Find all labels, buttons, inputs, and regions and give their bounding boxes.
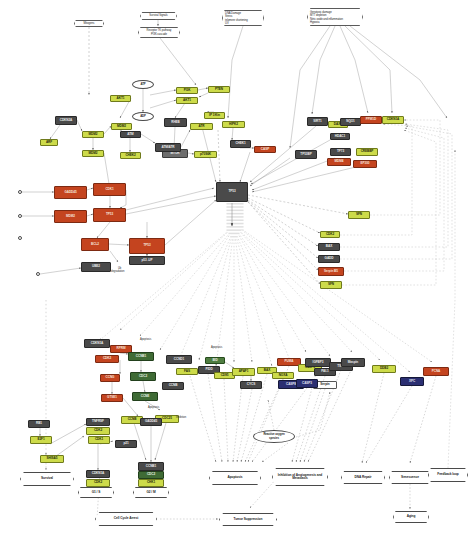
- gene-node[interactable]: MDM2: [82, 150, 104, 157]
- phenotype-node[interactable]: Apoptosis: [209, 471, 261, 485]
- stimulus-node: Survival Signals: [140, 12, 177, 20]
- gene-label: GADD: [325, 257, 334, 260]
- gene-node[interactable]: TP53BP: [295, 150, 317, 159]
- gene-node[interactable]: BAX: [318, 243, 340, 251]
- gene-node[interactable]: CDKN1A: [382, 116, 404, 124]
- gene-node[interactable]: CASP3: [296, 379, 318, 388]
- gene-node[interactable]: RHEB: [164, 118, 187, 127]
- gene-node[interactable]: ATM: [120, 131, 141, 138]
- gene-node[interactable]: ARF: [40, 139, 58, 146]
- gene-node[interactable]: CHEK1: [230, 140, 251, 148]
- gene-node[interactable]: AKT1: [110, 95, 131, 102]
- gene-node[interactable]: CCNB1: [128, 352, 154, 361]
- gene-node[interactable]: CDK1: [88, 436, 110, 444]
- stimulus-line: Survival Signals: [149, 14, 167, 17]
- phenotype-node[interactable]: G2 / M: [133, 487, 169, 498]
- gene-node[interactable]: UBE2: [81, 262, 111, 272]
- phenotype-node[interactable]: Survival: [20, 472, 74, 486]
- gene-node[interactable]: IP 3 Kin: [204, 112, 225, 119]
- gene-node[interactable]: PPM1D: [360, 116, 382, 124]
- gene-node[interactable]: CDC2: [138, 471, 164, 479]
- gene-node[interactable]: CCNG: [100, 374, 120, 382]
- annotation-label: Apoptosis: [211, 346, 222, 349]
- gene-node[interactable]: CDKN1A: [86, 470, 110, 478]
- gene-node[interactable]: p53 -UP: [129, 256, 165, 265]
- gene-node[interactable]: CASP: [254, 146, 276, 153]
- phenotype-node[interactable]: G1 / S: [78, 487, 114, 498]
- gene-node[interactable]: CCNE: [132, 392, 158, 401]
- gene-node[interactable]: CCNB: [162, 382, 184, 390]
- gene-label: SHISA5: [47, 457, 58, 460]
- gene-node[interactable]: AKT1: [176, 97, 198, 104]
- gene-node[interactable]: TP53: [129, 238, 165, 254]
- edge-layer: [0, 0, 471, 543]
- phenotype-node[interactable]: Tumor Suppression: [219, 513, 277, 526]
- gene-node[interactable]: CDK1: [93, 183, 126, 196]
- gene-node[interactable]: ATR: [190, 123, 213, 130]
- gene-node[interactable]: RB1: [28, 420, 50, 428]
- gene-node[interactable]: PI3K: [176, 87, 198, 94]
- gene-node[interactable]: CDK2: [95, 355, 119, 363]
- phenotype-node[interactable]: Aging: [393, 511, 429, 523]
- gene-node[interactable]: CDK2: [86, 427, 110, 435]
- gene-label: RB1: [36, 422, 42, 425]
- gene-node[interactable]: TNFRSF: [86, 418, 110, 426]
- gene-node[interactable]: TP73: [330, 148, 351, 156]
- gene-node[interactable]: CDK2: [320, 231, 340, 238]
- gene-node[interactable]: CDC2: [130, 372, 156, 381]
- gene-node[interactable]: MDM2: [82, 131, 104, 138]
- gene-node[interactable]: MDM2: [54, 210, 87, 223]
- gene-node[interactable]: ATM/ATR: [155, 143, 181, 152]
- gene-node[interactable]: APAF1: [232, 368, 255, 376]
- gene-label: TP53: [106, 213, 113, 216]
- gene-node[interactable]: MDM4: [327, 158, 351, 166]
- gene-node[interactable]: p70S6K: [194, 151, 217, 158]
- gene-node[interactable]: TP53: [93, 208, 126, 222]
- gene-node[interactable]: CDKN2A: [55, 116, 77, 125]
- gene-node[interactable]: CREBBP: [356, 148, 378, 156]
- gene-node[interactable]: CYCS: [240, 381, 262, 389]
- phenotype-node[interactable]: Inhibition of Angiogenesis and Metastasi…: [272, 468, 328, 486]
- gene-node[interactable]: CCND1: [166, 355, 192, 364]
- gene-node[interactable]: MDM2: [111, 123, 132, 130]
- gene-label: CDC2: [139, 375, 147, 378]
- gene-node[interactable]: CDKN1A: [84, 339, 110, 348]
- gene-node[interactable]: IGFBP3: [305, 358, 331, 367]
- gene-node[interactable]: BCL2: [81, 238, 109, 251]
- gene-label: CDC25: [162, 417, 172, 420]
- gene-node[interactable]: PCNA: [423, 367, 449, 376]
- gene-node[interactable]: SFN: [348, 211, 370, 219]
- phenotype-node[interactable]: Cell Cycle Arrest: [95, 512, 157, 526]
- phenotype-node[interactable]: Senescence: [389, 471, 431, 484]
- gene-node[interactable]: FAS: [176, 368, 198, 375]
- gene-node[interactable]: CHK1: [138, 479, 164, 487]
- gene-node[interactable]: NQO1: [340, 118, 361, 126]
- gene-node[interactable]: SHISA5: [40, 455, 64, 463]
- gene-node[interactable]: CCNB1: [138, 462, 164, 471]
- phenotype-node[interactable]: DNA Repair: [341, 471, 385, 484]
- gene-node[interactable]: SIRT1: [307, 117, 328, 126]
- gene-node[interactable]: Serpin B5: [318, 267, 344, 276]
- gene-node[interactable]: E2F1: [30, 436, 52, 444]
- gene-node[interactable]: Maspin: [341, 358, 365, 367]
- gene-label: ARF: [46, 141, 52, 144]
- gene-node[interactable]: XPC: [400, 377, 424, 386]
- gene-label: MDM2: [89, 133, 98, 136]
- gene-node[interactable]: CDK2: [86, 479, 110, 487]
- gene-node[interactable]: GADD: [318, 255, 340, 263]
- gene-node[interactable]: DDB2: [372, 365, 396, 373]
- gene-node[interactable]: CHEK2: [120, 152, 141, 159]
- gene-node[interactable]: SFN: [320, 281, 342, 289]
- gene-node[interactable]: GADD45: [140, 418, 162, 426]
- gene-node[interactable]: GADD45: [54, 186, 87, 199]
- phenotype-node[interactable]: Feedback loop: [428, 468, 468, 482]
- gene-node[interactable]: HIPK2: [222, 121, 245, 128]
- gene-node[interactable]: PTEN: [208, 86, 230, 93]
- gene-node[interactable]: BID: [205, 357, 225, 364]
- gene-node[interactable]: TP53: [216, 182, 248, 202]
- gene-node[interactable]: p21: [115, 440, 137, 448]
- gene-node[interactable]: EP300: [353, 160, 377, 168]
- gene-node[interactable]: HDAC1: [330, 133, 350, 140]
- gene-node[interactable]: GTSE1: [101, 394, 123, 402]
- gene-node[interactable]: NOXA: [272, 372, 294, 379]
